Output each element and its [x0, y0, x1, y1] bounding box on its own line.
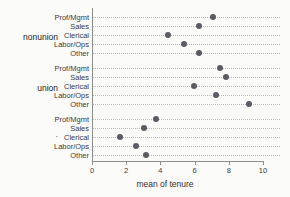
data-point	[246, 101, 252, 107]
row-label-clerical: Clerical	[64, 134, 89, 142]
data-point	[210, 14, 216, 20]
x-axis-tick	[229, 161, 230, 165]
x-axis-tick-label: 2	[116, 166, 136, 175]
x-axis-tick	[92, 161, 93, 165]
plot-area	[92, 8, 272, 161]
x-axis-tick	[126, 161, 127, 165]
row-label-prof-mgmt: Prof/Mgmt	[54, 65, 89, 73]
x-axis-tick	[160, 161, 161, 165]
row-label-other: Other	[70, 101, 89, 109]
x-axis-tick	[263, 161, 264, 165]
row-label-labor-ops: Labor/Ops	[54, 92, 89, 100]
data-point	[196, 23, 202, 29]
grid-line	[93, 26, 280, 27]
dot-plot-chart: nonunion union . Prof/Mgmt Sales Clerica…	[0, 0, 290, 197]
data-point	[133, 143, 139, 149]
row-label-sales: Sales	[70, 125, 89, 133]
data-point	[196, 50, 202, 56]
data-point	[181, 41, 187, 47]
grid-line	[93, 17, 280, 18]
row-label-sales: Sales	[70, 74, 89, 82]
grid-line	[93, 128, 280, 129]
data-point	[117, 134, 123, 140]
grid-line	[93, 119, 280, 120]
data-point	[141, 125, 147, 131]
grid-line	[93, 104, 280, 105]
data-point	[143, 152, 149, 158]
row-label-sales: Sales	[70, 23, 89, 31]
grid-line	[93, 53, 280, 54]
data-point	[213, 92, 219, 98]
group-label-nonunion: nonunion	[23, 33, 58, 42]
x-axis-line	[92, 161, 263, 162]
x-axis-tick-label: 6	[185, 166, 205, 175]
x-axis-tick-label: 8	[219, 166, 239, 175]
data-point	[153, 116, 159, 122]
row-label-prof-mgmt: Prof/Mgmt	[54, 116, 89, 124]
data-point	[217, 65, 223, 71]
x-axis-tick-label: 4	[150, 166, 170, 175]
grid-line	[93, 77, 280, 78]
x-axis-tick	[195, 161, 196, 165]
group-label-missing: .	[55, 130, 58, 139]
row-label-clerical: Clerical	[64, 32, 89, 40]
grid-line	[93, 68, 280, 69]
row-label-other: Other	[70, 50, 89, 58]
grid-line	[93, 95, 280, 96]
data-point	[165, 32, 171, 38]
grid-line	[93, 35, 280, 36]
grid-line	[93, 86, 280, 87]
row-label-clerical: Clerical	[64, 83, 89, 91]
grid-line	[93, 155, 280, 156]
row-label-prof-mgmt: Prof/Mgmt	[54, 14, 89, 22]
x-axis-tick-label: 10	[253, 166, 273, 175]
grid-line	[93, 146, 280, 147]
data-point	[223, 74, 229, 80]
x-axis-title: mean of tenure	[0, 179, 290, 189]
x-axis-tick-label: 0	[82, 166, 102, 175]
row-label-labor-ops: Labor/Ops	[54, 143, 89, 151]
row-label-other: Other	[70, 152, 89, 160]
row-label-labor-ops: Labor/Ops	[54, 41, 89, 49]
data-point	[191, 83, 197, 89]
